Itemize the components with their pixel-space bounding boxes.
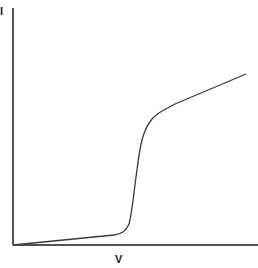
y-axis-label: I — [0, 6, 3, 17]
x-axis-label: V — [115, 254, 122, 265]
iv-curve — [13, 74, 246, 245]
iv-chart — [0, 0, 258, 268]
